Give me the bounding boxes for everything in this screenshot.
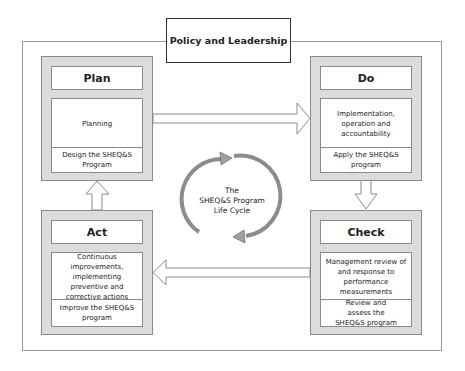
stage-check: Check Management review of and response …	[310, 210, 422, 335]
stage-action: Design the SHEQ&S Program	[52, 147, 142, 172]
stage-body: Planning Design the SHEQ&S Program	[51, 98, 143, 173]
stage-title: Check	[320, 220, 412, 244]
arrow-right-icon	[153, 103, 310, 134]
stage-action: Apply the SHEQ&S program	[321, 147, 411, 172]
stage-act: Act Continuous improvements, implementin…	[41, 210, 153, 335]
stage-plan: Plan Planning Design the SHEQ&S Program	[41, 56, 153, 181]
stage-body: Management review of and response to per…	[320, 252, 412, 327]
stage-do: Do Implementation, operation and account…	[310, 56, 422, 181]
stage-title: Plan	[51, 66, 143, 90]
stage-description: Implementation, operation and accountabi…	[321, 99, 411, 149]
stage-body: Implementation, operation and accountabi…	[320, 98, 412, 173]
stage-action: Improve the SHEQ&S program	[52, 299, 142, 326]
cycle-label-line: Life Cycle	[192, 206, 272, 216]
arrow-up-icon	[86, 181, 109, 210]
stage-description: Management review of and response to per…	[321, 253, 411, 301]
stage-title: Do	[320, 66, 412, 90]
stage-title: Act	[51, 220, 143, 244]
stage-action: Review and assess the SHEQ&S program	[321, 299, 411, 326]
stage-description: Continuous improvements, implementing pr…	[52, 253, 142, 301]
cycle-label-line: The	[192, 186, 272, 196]
cycle-label-line: SHEQ&S Program	[192, 196, 272, 206]
stage-description: Planning	[52, 99, 142, 149]
arrow-down-icon	[355, 180, 377, 209]
arrow-left-icon	[153, 260, 310, 285]
cycle-label: The SHEQ&S Program Life Cycle	[192, 186, 272, 216]
stage-body: Continuous improvements, implementing pr…	[51, 252, 143, 327]
